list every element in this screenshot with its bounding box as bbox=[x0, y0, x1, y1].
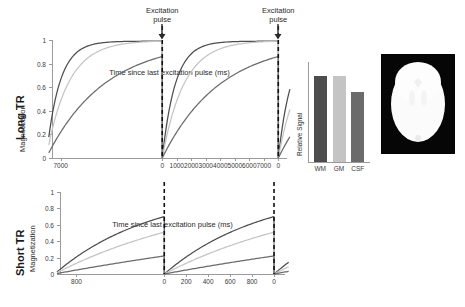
brain-image-long-tr bbox=[381, 54, 455, 154]
brain-slice-low-contrast bbox=[381, 54, 455, 154]
bar-wm bbox=[314, 76, 327, 162]
x-tick-label: 600 bbox=[225, 278, 236, 285]
y-tick-label: 0.4 bbox=[32, 238, 54, 245]
bar-label-gm: GM bbox=[334, 165, 344, 172]
long-tr-panel: Long TR Magnetization Time since last ex… bbox=[0, 0, 465, 180]
excitation-pulse-annotation: Excitationpulse bbox=[262, 6, 295, 24]
bar-csf bbox=[351, 92, 364, 162]
short-tr-panel: Short TR Magnetization Time since last e… bbox=[0, 180, 465, 307]
long-tr-recovery-chart: Magnetization Time since last excitation… bbox=[52, 40, 287, 158]
curve-gm bbox=[49, 41, 290, 158]
x-tick-label: 0 bbox=[160, 162, 164, 169]
x-tick-label: 5000 bbox=[228, 162, 242, 169]
x-tick-label: 6000 bbox=[242, 162, 256, 169]
x-tick-label: 400 bbox=[203, 278, 214, 285]
x-tick-label: 800 bbox=[71, 278, 82, 285]
y-tick-label: 0.6 bbox=[24, 84, 46, 91]
x-tick-label: 1000 bbox=[170, 162, 184, 169]
x-tick-label: 7000 bbox=[53, 162, 67, 169]
x-tick-label: 200 bbox=[181, 278, 192, 285]
y-tick-label: 1 bbox=[32, 189, 54, 196]
y-tick-label: 0.2 bbox=[24, 131, 46, 138]
x-tick-label: 2000 bbox=[184, 162, 198, 169]
y-tick-label: 0.8 bbox=[32, 205, 54, 212]
y-tick-label: 0.2 bbox=[32, 254, 54, 261]
x-tick-label: 800 bbox=[247, 278, 258, 285]
y-axis-title: Magnetization bbox=[28, 225, 37, 272]
excitation-label-line1: Excitation bbox=[262, 6, 295, 15]
curve-wm bbox=[57, 217, 289, 274]
bar-gm bbox=[333, 76, 346, 162]
short-tr-recovery-chart: Magnetization Time since last excitation… bbox=[60, 192, 285, 274]
bar-x-axis-line bbox=[308, 162, 370, 163]
bar-label-csf: CSF bbox=[351, 165, 364, 172]
y-tick-label: 0.6 bbox=[32, 221, 54, 228]
row-label-short-tr: Short TR bbox=[14, 230, 26, 276]
curve-wm bbox=[49, 41, 290, 158]
excitation-label-line2: pulse bbox=[146, 15, 179, 24]
excitation-label-line1: Excitation bbox=[146, 6, 179, 15]
bar-label-wm: WM bbox=[314, 165, 326, 172]
excitation-label-line2: pulse bbox=[262, 15, 295, 24]
x-tick-label: 7000 bbox=[257, 162, 271, 169]
y-tick-label: 0 bbox=[32, 271, 54, 278]
arrow-down-icon bbox=[274, 24, 283, 40]
x-tick-label: 0 bbox=[162, 278, 166, 285]
y-tick-label: 1 bbox=[24, 37, 46, 44]
x-tick-label: 4000 bbox=[213, 162, 227, 169]
long-tr-bar-chart: Relative Signal WMGMCSF bbox=[308, 62, 370, 162]
y-tick-label: 0.4 bbox=[24, 107, 46, 114]
bar-y-axis-title: Relative Signal bbox=[296, 113, 303, 156]
x-tick-label: 3000 bbox=[199, 162, 213, 169]
excitation-pulse-annotation: Excitationpulse bbox=[146, 6, 179, 24]
recovery-curves bbox=[60, 192, 287, 276]
x-tick-label: 0 bbox=[276, 162, 280, 169]
curve-csf bbox=[57, 256, 289, 274]
y-tick-label: 0 bbox=[24, 155, 46, 162]
x-tick-label: 0 bbox=[272, 278, 276, 285]
recovery-curves bbox=[52, 40, 289, 160]
bar-y-axis-line bbox=[308, 62, 309, 162]
arrow-down-icon bbox=[158, 24, 167, 40]
y-tick-label: 0.8 bbox=[24, 60, 46, 67]
